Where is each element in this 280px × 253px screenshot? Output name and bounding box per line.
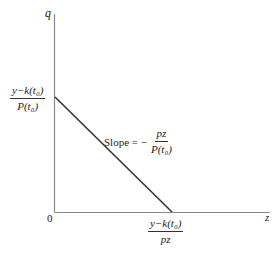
- slope-prefix: Slope = −: [104, 136, 147, 148]
- x-intercept-denominator: pz: [161, 232, 171, 246]
- y-intercept-numerator: y−k(t₀): [10, 84, 45, 99]
- y-intercept-denominator: P(t₀): [17, 99, 38, 113]
- slope-fraction: pz P(t₀): [151, 127, 172, 156]
- x-intercept-numerator: y−k(t₀): [148, 217, 183, 232]
- slope-denominator: P(t₀): [151, 142, 172, 156]
- y-intercept-label: y−k(t₀) P(t₀): [10, 84, 45, 113]
- origin-label: 0: [47, 212, 53, 224]
- x-axis-label: z: [265, 211, 269, 223]
- y-axis-label: q: [45, 6, 51, 21]
- slope-annotation: Slope = − pz P(t₀): [104, 127, 172, 156]
- slope-numerator: pz: [155, 127, 169, 142]
- x-intercept-label: y−k(t₀) pz: [148, 217, 183, 246]
